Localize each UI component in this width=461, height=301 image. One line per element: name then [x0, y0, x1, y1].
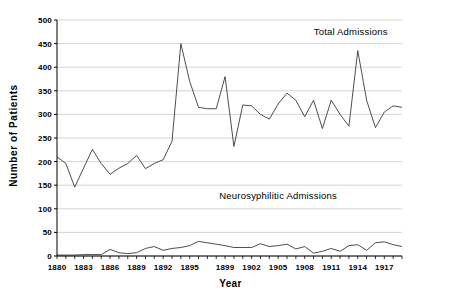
- y-tick-label: 50: [43, 228, 53, 237]
- x-tick-label: 1911: [322, 263, 341, 272]
- x-tick-label: 1883: [74, 263, 93, 272]
- x-tick-label: 1886: [101, 263, 120, 272]
- series-annotation: Neurosyphilitic Admissions: [219, 190, 337, 201]
- x-tick-label: 1914: [348, 263, 367, 272]
- series-line-2: [57, 241, 402, 255]
- y-tick-label: 450: [38, 40, 52, 49]
- x-tick-label: 1905: [269, 263, 288, 272]
- series-line-1: [57, 44, 402, 187]
- y-tick-label: 0: [47, 252, 52, 261]
- x-tick-label: 1895: [180, 263, 199, 272]
- x-tick-label: 1902: [242, 263, 261, 272]
- x-tick-label: 1908: [295, 263, 314, 272]
- y-tick-label: 500: [38, 16, 52, 25]
- x-tick-label: 1889: [127, 263, 146, 272]
- x-tick-label: 1892: [154, 263, 173, 272]
- y-tick-label: 400: [38, 63, 52, 72]
- x-tick-label: 1917: [375, 263, 394, 272]
- line-chart-plot: 050100150200250300350400450500 188018831…: [0, 0, 461, 301]
- series-annotation: Total Admissions: [314, 26, 388, 37]
- x-tick-labels-group: 1880188318861889189218951899190219051908…: [48, 263, 394, 272]
- y-tick-label: 200: [38, 158, 52, 167]
- data-series-group: [57, 44, 402, 255]
- y-tick-label: 300: [38, 110, 52, 119]
- x-tick-label: 1880: [48, 263, 67, 272]
- y-tick-label: 250: [38, 134, 52, 143]
- y-tick-labels-group: 050100150200250300350400450500: [38, 16, 57, 261]
- gridlines-group: [57, 20, 402, 256]
- y-tick-label: 100: [38, 205, 52, 214]
- y-tick-label: 150: [38, 181, 52, 190]
- x-tick-label: 1899: [216, 263, 235, 272]
- y-tick-label: 350: [38, 87, 52, 96]
- chart-container: Number of Patients Year 0501001502002503…: [0, 0, 461, 301]
